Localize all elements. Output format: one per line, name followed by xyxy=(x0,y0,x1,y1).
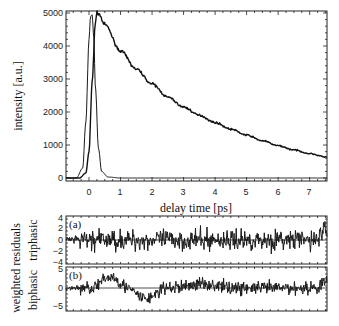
x-tick-labels: 0 1 2 3 4 5 6 7 xyxy=(86,187,311,197)
residual-a-trace xyxy=(66,221,327,254)
y-tick-label: 0 xyxy=(58,235,63,245)
y-tick-label: 0 xyxy=(58,173,63,183)
y-tick-label: 4 xyxy=(58,213,63,223)
y-tick-label: 4000 xyxy=(43,41,63,51)
y-tick-label: −5 xyxy=(53,301,63,311)
figure: 0 1000 2000 3000 4000 5000 0 1 2 3 4 5 6… xyxy=(0,0,339,326)
main-plot-frame xyxy=(66,11,327,181)
y-tick-label: 0 xyxy=(58,283,63,293)
y-tick-label: 1000 xyxy=(43,140,63,150)
triphasic-label: triphasic xyxy=(26,219,40,260)
y-tick-label: 2 xyxy=(58,223,63,233)
y-tick-label: 3000 xyxy=(43,74,63,84)
x-tick-label: 6 xyxy=(275,187,280,197)
y-tick-label: 5000 xyxy=(43,8,63,18)
x-tick-label: 7 xyxy=(306,187,311,197)
y-tick-label: 2000 xyxy=(43,107,63,117)
x-axis-title: delay time [ps] xyxy=(160,201,232,215)
pulse-trace xyxy=(66,15,327,178)
main-axis-ticks xyxy=(66,11,327,181)
weighted-residuals-label: weighted residuals xyxy=(9,223,23,313)
y-tick-labels: 0 1000 2000 3000 4000 5000 xyxy=(43,8,63,183)
y-tick-label: −2 xyxy=(53,246,63,256)
x-tick-label: 5 xyxy=(243,187,248,197)
residual-panel-b: (b) 5 0 −5 xyxy=(53,264,327,311)
residual-panel-a: (a) 4 2 0 −2 −4 xyxy=(53,213,327,267)
signal-trace xyxy=(66,11,327,178)
x-tick-label: 3 xyxy=(180,187,185,197)
panel-b-tag: (b) xyxy=(69,269,82,282)
y-tick-label: 5 xyxy=(58,264,63,274)
x-tick-label: 4 xyxy=(212,187,217,197)
x-tick-label: 1 xyxy=(117,187,122,197)
panel-a-tag: (a) xyxy=(69,218,82,231)
main-plot: 0 1000 2000 3000 4000 5000 0 1 2 3 4 5 6… xyxy=(11,8,327,215)
x-tick-label: 2 xyxy=(149,187,154,197)
biphasic-label: biphasic xyxy=(26,270,40,310)
y-axis-title: intensity [a.u.] xyxy=(11,61,25,131)
x-tick-label: 0 xyxy=(86,187,91,197)
